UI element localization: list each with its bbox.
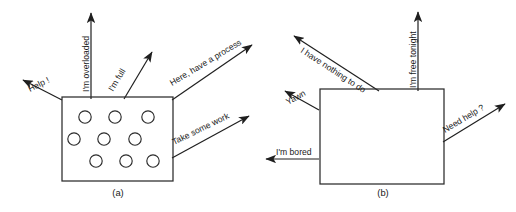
workload-circle <box>90 155 102 167</box>
workload-circle <box>142 111 154 123</box>
label-here-have-a-process: Here, have a process <box>168 37 243 88</box>
label-i-have-nothing-to-do: I have nothing to do <box>299 45 368 95</box>
workload-circle <box>68 133 80 145</box>
arrow-i-have-nothing-to-do <box>294 36 379 91</box>
label-im-full: I'm full <box>106 67 127 93</box>
diagram-canvas: Help ! I'm overloaded I'm full Here, hav… <box>0 0 516 212</box>
workload-circle <box>120 155 132 167</box>
panel-b-labels: I have nothing to do I'm free tonight Ya… <box>276 31 486 157</box>
overloaded-person-box <box>62 97 173 181</box>
workload-circle <box>129 133 141 145</box>
panel-a-arrows <box>23 13 252 158</box>
panel-a: Help ! I'm overloaded I'm full Here, hav… <box>23 13 252 198</box>
figure-container: Help ! I'm overloaded I'm full Here, hav… <box>0 0 516 212</box>
label-help: Help ! <box>26 75 51 94</box>
workload-circle <box>109 111 121 123</box>
arrow-im-full <box>124 52 152 99</box>
caption-panel-a: (a) <box>112 187 123 198</box>
workload-circles <box>68 111 159 167</box>
idle-person-box <box>320 89 444 184</box>
workload-circle <box>98 133 110 145</box>
label-im-free-tonight: I'm free tonight <box>408 31 418 88</box>
label-yawn: Yawn <box>284 88 307 107</box>
label-im-overloaded: I'm overloaded <box>81 36 91 92</box>
label-im-bored: I'm bored <box>276 147 312 157</box>
label-take-some-work: Take some work <box>170 110 231 147</box>
panel-b: I have nothing to do I'm free tonight Ya… <box>266 12 505 198</box>
panel-b-arrows <box>266 12 505 159</box>
workload-circle <box>147 155 159 167</box>
panel-a-labels: Help ! I'm overloaded I'm full Here, hav… <box>26 36 243 147</box>
caption-panel-b: (b) <box>377 187 388 198</box>
workload-circle <box>79 111 91 123</box>
